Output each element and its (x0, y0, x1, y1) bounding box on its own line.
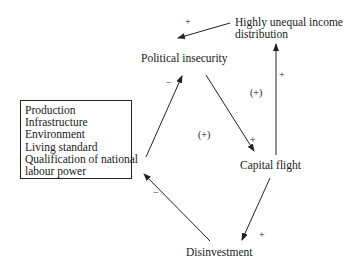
node-income-line2: distribution (235, 28, 288, 40)
sign-lower-left: − (153, 188, 159, 198)
loop-label-upper-right: (+) (250, 88, 262, 98)
factor-item: Production (25, 104, 131, 116)
factor-item: Infrastructure (25, 116, 131, 128)
sign-lower-right: + (259, 230, 265, 240)
arrow-political-to-capital (206, 75, 254, 151)
factors-box: Production Infrastructure Environment Li… (20, 100, 132, 179)
factor-item: Environment (25, 128, 131, 140)
node-income-line1: Highly unequal income (235, 16, 343, 28)
sign-top: + (185, 17, 191, 27)
loop-label-center: (+) (198, 130, 210, 140)
arrow-box-to-political (146, 76, 182, 157)
factor-item: labour power (25, 165, 131, 177)
arrow-capital-to-disinvestment (242, 178, 270, 240)
sign-left-up: − (166, 78, 172, 88)
factor-item: Qualification of national (25, 153, 131, 165)
node-disinvestment: Disinvestment (186, 246, 252, 258)
arrow-disinvestment-to-box (144, 174, 210, 241)
factor-item: Living standard (25, 141, 131, 153)
node-capital-flight: Capital flight (240, 159, 301, 171)
node-political-insecurity: Political insecurity (141, 52, 228, 64)
sign-diag-down: + (250, 135, 256, 145)
sign-vertical: + (279, 70, 285, 80)
